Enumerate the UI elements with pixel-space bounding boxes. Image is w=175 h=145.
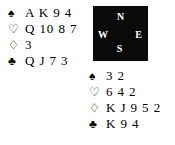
hand-south-diamonds-row: ♢ K J 9 5 2 xyxy=(89,100,161,116)
hand-north-spades-row: ♠ A K 9 4 xyxy=(8,5,77,21)
hand-south-hearts-row: ♡ 6 4 2 xyxy=(89,84,161,100)
hand-north-clubs-row: ♣ Q J 7 3 xyxy=(8,53,77,69)
compass-box: N W E S xyxy=(93,6,148,61)
compass-label-south: S xyxy=(93,44,146,54)
hand-north: ♠ A K 9 4 ♡ Q 10 8 7 ♢ 3 ♣ Q J 7 3 xyxy=(8,5,77,69)
hand-north-diamonds-cards: 3 xyxy=(21,37,32,53)
diamond-icon: ♢ xyxy=(89,100,102,116)
hand-south: ♠ 3 2 ♡ 6 4 2 ♢ K J 9 5 2 ♣ K 9 4 xyxy=(89,68,161,132)
hand-south-spades-cards: 3 2 xyxy=(102,68,125,84)
compass-label-north: N xyxy=(93,12,148,22)
heart-icon: ♡ xyxy=(8,21,21,37)
hand-south-diamonds-cards: K J 9 5 2 xyxy=(102,100,161,116)
spade-icon: ♠ xyxy=(8,5,21,21)
club-icon: ♣ xyxy=(8,53,21,69)
club-icon: ♣ xyxy=(89,116,102,132)
hand-north-clubs-cards: Q J 7 3 xyxy=(21,53,69,69)
hand-south-hearts-cards: 6 4 2 xyxy=(102,84,137,100)
compass-label-east: E xyxy=(135,30,142,40)
hand-south-clubs-row: ♣ K 9 4 xyxy=(89,116,161,132)
hand-north-diamonds-row: ♢ 3 xyxy=(8,37,77,53)
spade-icon: ♠ xyxy=(89,68,102,84)
diamond-icon: ♢ xyxy=(8,37,21,53)
hand-north-hearts-row: ♡ Q 10 8 7 xyxy=(8,21,77,37)
compass-label-west: W xyxy=(98,30,108,40)
heart-icon: ♡ xyxy=(89,84,102,100)
hand-north-hearts-cards: Q 10 8 7 xyxy=(21,21,77,37)
bridge-deal-diagram: ♠ A K 9 4 ♡ Q 10 8 7 ♢ 3 ♣ Q J 7 3 N W E… xyxy=(0,0,175,145)
hand-north-spades-cards: A K 9 4 xyxy=(21,5,72,21)
hand-south-spades-row: ♠ 3 2 xyxy=(89,68,161,84)
hand-south-clubs-cards: K 9 4 xyxy=(102,116,139,132)
